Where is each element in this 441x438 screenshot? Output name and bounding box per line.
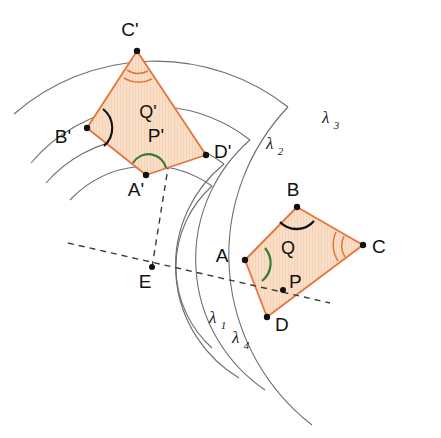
vertex-label-C: C [372, 236, 386, 257]
arc-label-lambda-4: λ 4 [231, 328, 250, 351]
region-label-Q: Q [281, 238, 295, 258]
arc-label-lambda-4-sub: 4 [244, 339, 250, 351]
arc-label-lambda-3-base: λ [321, 108, 329, 127]
vertex-label-A-prime: A' [128, 179, 144, 200]
vertex-label-group: C' B' A' D' B C A D E P P' [55, 19, 386, 335]
vertex-label-D-prime: D' [214, 141, 231, 162]
vertex-label-C-prime: C' [121, 19, 138, 40]
vertex-label-P-prime: P' [148, 125, 164, 146]
vertex-dot-B-prime [84, 125, 90, 131]
arc-label-lambda-1-sub: 1 [221, 319, 227, 331]
arc-label-lambda-2-base: λ [265, 134, 273, 153]
arc-lambda-1 [176, 186, 212, 348]
geometry-diagram: C' B' A' D' B C A D E P P' Q Q' λ 1 λ 2 [0, 0, 441, 438]
dashed-E-to-Aprime [152, 168, 168, 267]
vertex-label-D: D [275, 314, 289, 335]
vertex-dot-A [242, 257, 248, 263]
arc-label-lambda-3: λ 3 [321, 108, 340, 131]
vertex-dot-E [149, 264, 155, 270]
quad-original-shape [245, 207, 363, 317]
vertex-dot-C-prime [134, 48, 140, 54]
arc-label-lambda-2-sub: 2 [278, 145, 284, 157]
arc-label-lambda-3-sub: 3 [333, 119, 340, 131]
arc-label-lambda-1-base: λ [208, 308, 216, 327]
arc-label-lambda-2: λ 2 [265, 134, 284, 157]
vertex-dot-C [360, 242, 366, 248]
vertex-dot-A-prime [143, 172, 149, 178]
vertex-dot-B [294, 204, 300, 210]
vertex-dot-D [264, 314, 270, 320]
vertex-label-B-prime: B' [55, 126, 71, 147]
vertex-label-P: P [289, 271, 302, 292]
vertex-label-A: A [216, 245, 229, 266]
vertex-label-E: E [139, 271, 152, 292]
figure-root: C' B' A' D' B C A D E P P' Q Q' λ 1 λ 2 [0, 0, 441, 438]
vertex-dot-P [280, 287, 286, 293]
vertex-label-B: B [287, 179, 300, 200]
region-label-Q-prime: Q' [139, 102, 156, 122]
vertex-dot-D-prime [203, 152, 209, 158]
arc-label-lambda-4-base: λ [231, 328, 239, 347]
